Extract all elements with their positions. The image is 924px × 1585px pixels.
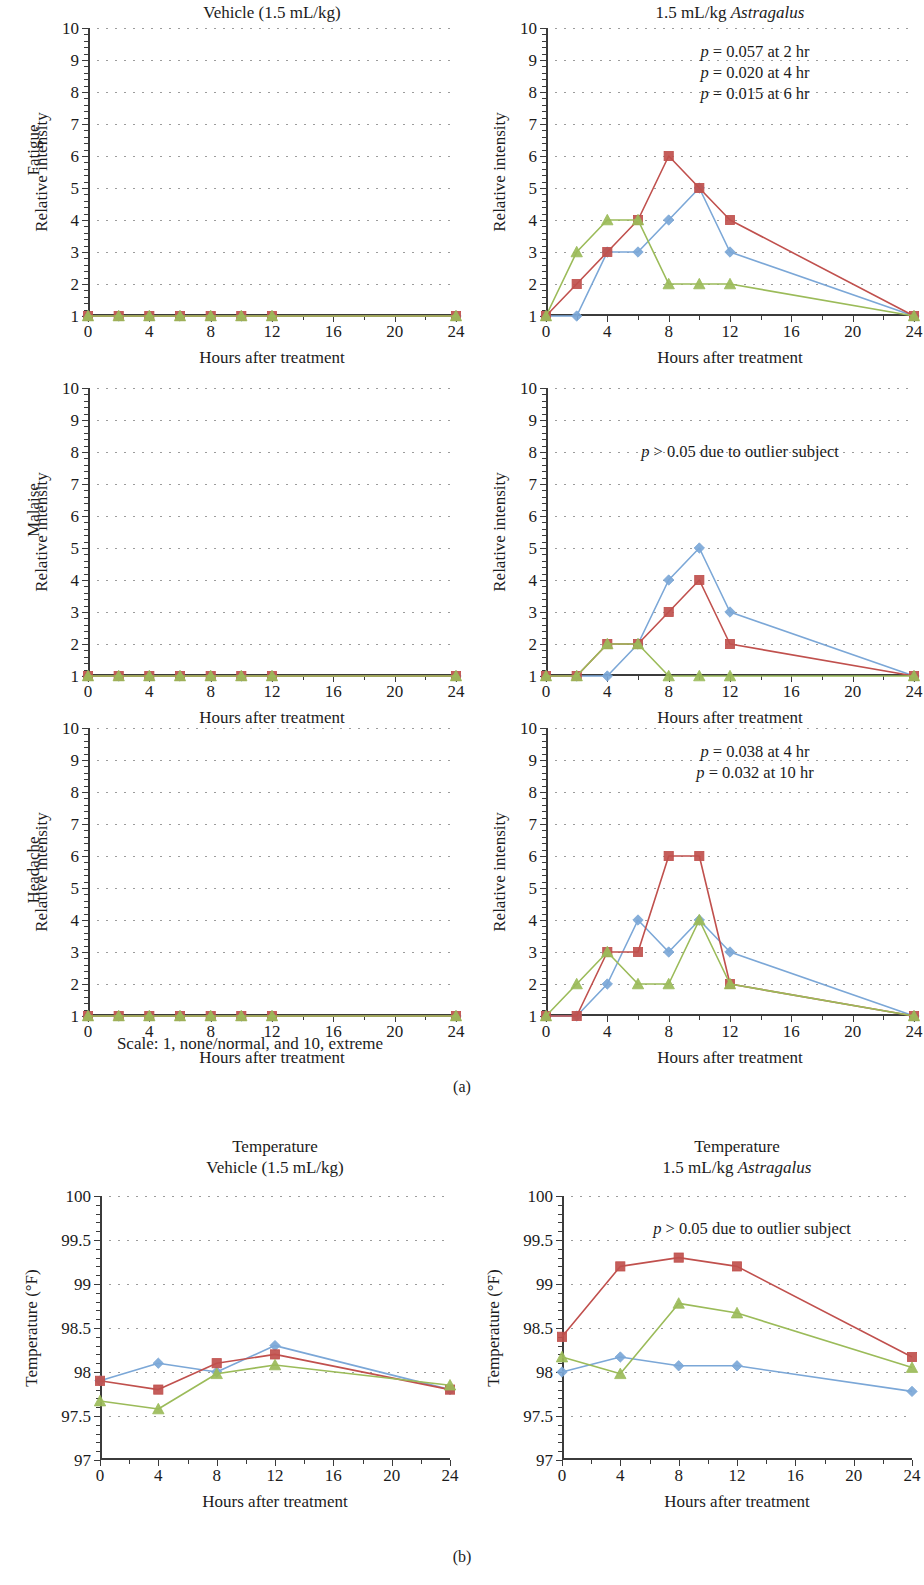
series-subject-blue xyxy=(541,915,919,1021)
y-axis-title: Relative intensity xyxy=(32,728,51,1016)
annotation-group: p = 0.038 at 4 hrp = 0.032 at 10 hr xyxy=(606,741,904,783)
y-tick-label: 3 xyxy=(529,944,538,961)
y-tick-label: 97 xyxy=(536,1452,553,1469)
marker-square xyxy=(695,575,704,584)
series-subject-green xyxy=(82,310,461,321)
x-tick-label: 8 xyxy=(664,1023,673,1040)
y-tick-label: 100 xyxy=(528,1188,554,1205)
y-axis-title: Relative intensity xyxy=(490,388,509,676)
y-tick-label: 1 xyxy=(71,1008,80,1025)
series-subject-green xyxy=(540,914,919,1021)
y-tick-label: 6 xyxy=(71,508,80,525)
x-tick-minor xyxy=(766,1460,767,1464)
y-tick-label: 99 xyxy=(536,1276,553,1293)
x-tick-label: 0 xyxy=(542,683,551,700)
x-tick-label: 0 xyxy=(542,1023,551,1040)
y-tick-label: 9 xyxy=(71,412,80,429)
x-tick-label: 8 xyxy=(674,1467,683,1484)
y-tick-label: 97.5 xyxy=(61,1408,91,1425)
x-tick-label: 4 xyxy=(145,323,154,340)
marker-diamond xyxy=(572,311,582,321)
y-tick-label: 99.5 xyxy=(61,1232,91,1249)
marker-square xyxy=(95,1376,104,1385)
x-tick-minor xyxy=(129,1460,130,1464)
y-tick-label: 6 xyxy=(71,848,80,865)
x-tick-label: 12 xyxy=(722,323,739,340)
series-subject-blue xyxy=(541,543,919,681)
marker-square xyxy=(616,1262,625,1271)
y-tick-label: 7 xyxy=(71,116,80,133)
marker-diamond xyxy=(615,1352,625,1362)
y-tick-label: 1 xyxy=(71,308,80,325)
figure-root: Fatigue Malaise Headache Vehicle (1.5 mL… xyxy=(0,0,924,1585)
x-tick-minor xyxy=(188,1460,189,1464)
x-tick-minor xyxy=(822,316,823,320)
chart-malaise-vehicle: 1234567891004812162024Hours after treatm… xyxy=(88,388,456,676)
y-tick-label: 4 xyxy=(71,912,80,929)
x-tick-label: 24 xyxy=(448,1023,465,1040)
marker-square xyxy=(725,215,734,224)
chart-temperature-astragalus: Temperature1.5 mL/kg Astragalus9797.5989… xyxy=(562,1196,912,1460)
x-tick-minor xyxy=(699,1016,700,1020)
x-tick-minor xyxy=(883,316,884,320)
y-tick-label: 7 xyxy=(529,476,538,493)
plot-area: 9797.59898.59999.510004812162024 xyxy=(100,1196,450,1460)
x-tick-label: 24 xyxy=(448,323,465,340)
y-axis-title: Relative intensity xyxy=(32,388,51,676)
chart-temperature-vehicle: TemperatureVehicle (1.5 mL/kg)9797.59898… xyxy=(100,1196,450,1460)
x-tick-minor xyxy=(304,1460,305,1464)
y-tick-label: 10 xyxy=(520,380,537,397)
x-tick-label: 24 xyxy=(442,1467,459,1484)
x-tick-label: 8 xyxy=(664,683,673,700)
x-tick-minor xyxy=(246,1460,247,1464)
marker-diamond xyxy=(725,247,735,257)
y-tick-label: 1 xyxy=(529,668,538,685)
y-tick-label: 4 xyxy=(529,212,538,229)
y-tick-label: 98 xyxy=(74,1364,91,1381)
chart-malaise-astragalus: 1234567891004812162024p > 0.05 due to ou… xyxy=(546,388,914,676)
x-tick-label: 16 xyxy=(783,1023,800,1040)
marker-square xyxy=(695,851,704,860)
x-tick-label: 16 xyxy=(325,1467,342,1484)
plot-area: 1234567891004812162024p > 0.05 due to ou… xyxy=(546,388,914,676)
y-tick-label: 9 xyxy=(529,412,538,429)
annotation-line: p = 0.032 at 10 hr xyxy=(606,762,904,783)
x-tick-label: 20 xyxy=(386,323,403,340)
x-tick-label: 24 xyxy=(448,683,465,700)
x-tick-label: 24 xyxy=(906,323,923,340)
x-tick-minor xyxy=(883,1460,884,1464)
x-tick-minor xyxy=(822,1016,823,1020)
x-tick-label: 24 xyxy=(906,683,923,700)
x-tick-minor xyxy=(363,1460,364,1464)
annotation-group: p > 0.05 due to outlier subject xyxy=(576,441,904,462)
x-tick-minor xyxy=(883,1016,884,1020)
marker-square xyxy=(557,1332,566,1341)
chart-headache-astragalus: 1234567891004812162024p = 0.038 at 4 hrp… xyxy=(546,728,914,1016)
marker-triangle xyxy=(94,1395,105,1406)
plot-area: 1234567891004812162024 xyxy=(88,728,456,1016)
y-tick-label: 2 xyxy=(71,976,80,993)
x-tick-label: 16 xyxy=(325,683,342,700)
x-tick-label: 20 xyxy=(844,1023,861,1040)
marker-square xyxy=(695,183,704,192)
marker-square xyxy=(633,947,642,956)
annotation-line: p = 0.057 at 2 hr xyxy=(606,41,904,62)
x-tick-label: 0 xyxy=(84,323,93,340)
series-subject-green xyxy=(540,214,919,320)
y-tick-label: 8 xyxy=(529,84,538,101)
plot-area: 1234567891004812162024p = 0.038 at 4 hrp… xyxy=(546,728,914,1016)
y-tick-label: 5 xyxy=(529,540,538,557)
y-tick-label: 7 xyxy=(71,816,80,833)
chart-headache-vehicle: 1234567891004812162024Hours after treatm… xyxy=(88,728,456,1016)
annotation-line: p = 0.038 at 4 hr xyxy=(606,741,904,762)
x-tick-label: 4 xyxy=(603,323,612,340)
x-tick-label: 20 xyxy=(845,1467,862,1484)
x-tick-label: 4 xyxy=(154,1467,163,1484)
marker-square xyxy=(732,1262,741,1271)
marker-square xyxy=(270,1350,279,1359)
y-tick-label: 1 xyxy=(529,308,538,325)
y-tick-label: 10 xyxy=(520,720,537,737)
x-tick-label: 20 xyxy=(844,323,861,340)
y-tick-label: 97.5 xyxy=(523,1408,553,1425)
marker-square xyxy=(725,639,734,648)
